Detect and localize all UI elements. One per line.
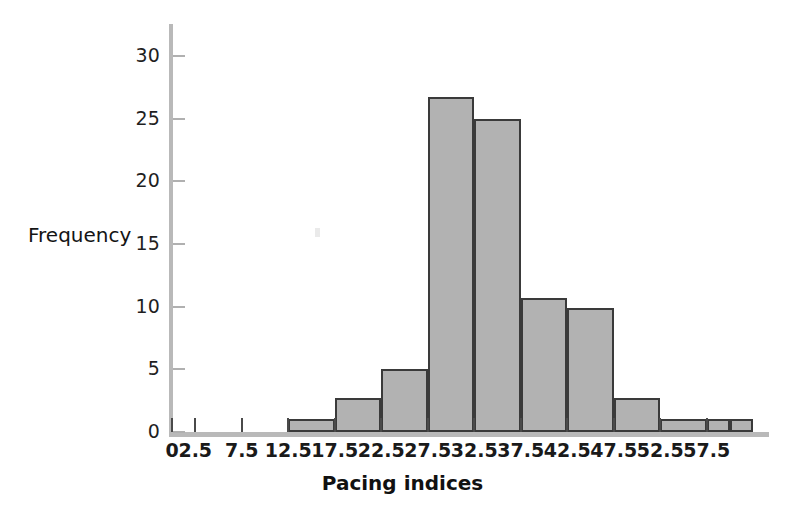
y-axis-tick-label: 15 [118, 234, 160, 253]
x-axis-tick-label: 37.5 [497, 440, 544, 461]
y-axis-tick-label: 20 [118, 171, 160, 190]
x-axis-tick-label: 17.5 [311, 440, 358, 461]
x-axis-tick [706, 418, 708, 432]
x-axis-line [169, 432, 769, 437]
x-axis-tick [287, 418, 289, 432]
histogram-bar [474, 119, 521, 433]
y-axis-tick-label: 10 [118, 297, 160, 316]
x-axis-tick [520, 418, 522, 432]
y-axis-tick [173, 180, 185, 182]
histogram-bar [707, 419, 730, 432]
y-axis-tick-label: 30 [118, 46, 160, 65]
x-axis-tick-label: 2.5 [178, 440, 212, 461]
x-axis-tick-label: 27.5 [404, 440, 451, 461]
x-axis-tick-label: 22.5 [358, 440, 405, 461]
x-axis-tick [659, 418, 661, 432]
histogram-bar [335, 398, 382, 432]
y-axis-tick [173, 118, 185, 120]
y-axis-tick [173, 55, 185, 57]
x-axis-tick [613, 418, 615, 432]
y-axis-tick [173, 306, 185, 308]
histogram-bar [521, 298, 568, 432]
y-axis-tick [173, 368, 185, 370]
histogram-bar [428, 97, 475, 432]
histogram-bar [660, 419, 707, 432]
histogram-bar [730, 419, 753, 432]
x-axis-tick-label: 0 [165, 440, 178, 461]
scan-speck [315, 228, 320, 237]
x-axis-tick [380, 418, 382, 432]
y-axis-tick-label: 25 [118, 109, 160, 128]
x-axis-tick [473, 418, 475, 432]
x-axis-tick-label: 52.5 [637, 440, 684, 461]
y-axis-tick [173, 243, 185, 245]
histogram-bar [567, 308, 614, 432]
x-axis-tick [566, 418, 568, 432]
y-axis-tick-label: 5 [118, 359, 160, 378]
histogram-bar [288, 419, 335, 432]
y-axis-title: Frequency [28, 224, 131, 246]
x-axis-tick-label: 42.5 [544, 440, 591, 461]
x-axis-tick [171, 418, 173, 432]
x-axis-tick [427, 418, 429, 432]
x-axis-tick-label: 32.5 [451, 440, 498, 461]
x-axis-title: Pacing indices [0, 472, 805, 494]
y-axis-tick [173, 431, 185, 433]
x-axis-tick-label: 7.5 [225, 440, 259, 461]
y-axis-line [169, 24, 173, 434]
x-axis-tick [241, 418, 243, 432]
x-axis-tick-label: 47.5 [590, 440, 637, 461]
histogram-figure: Frequency 051015202530 02.57.512.517.522… [0, 0, 805, 525]
y-axis-tick-label: 0 [118, 422, 160, 441]
x-axis-tick-label: 12.5 [265, 440, 312, 461]
x-axis-tick [194, 418, 196, 432]
histogram-bar [381, 369, 428, 432]
histogram-bar [614, 398, 661, 432]
x-axis-tick [334, 418, 336, 432]
x-axis-tick-label: 57.5 [683, 440, 730, 461]
